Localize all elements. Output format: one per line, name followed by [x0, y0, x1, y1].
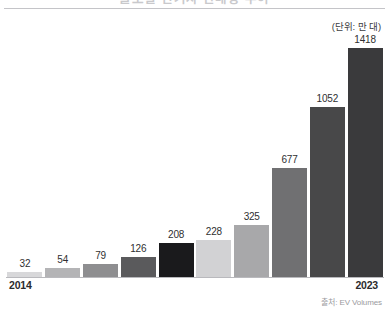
bar-rect: [83, 264, 118, 277]
bar-rect: [196, 240, 231, 277]
x-axis-label-first: 2014: [9, 279, 32, 291]
page-title: 글로벌 전기차 판매량 추이: [0, 0, 389, 7]
axis-baseline: [6, 277, 384, 278]
bar-value-label: 126: [130, 243, 146, 254]
header-divider: [4, 8, 385, 9]
bar-value-label: 228: [206, 226, 222, 237]
bar-item: 325: [234, 34, 269, 277]
bar-rect: [121, 257, 156, 277]
bar-item: 126: [121, 34, 156, 277]
bar-rect: [310, 107, 345, 277]
source-note: 출처: EV Volumes: [321, 296, 382, 307]
bar-item: 208: [159, 34, 194, 277]
bar-rect: [272, 168, 307, 277]
bar-value-label: 79: [95, 250, 106, 261]
bar-value-label: 1418: [354, 34, 375, 45]
bar-value-label: 54: [57, 254, 68, 265]
chart-page: 글로벌 전기차 판매량 추이 (단위: 만 대) 325479126208228…: [0, 0, 389, 312]
x-axis: 2014 2023: [6, 279, 384, 295]
bar-item: 79: [83, 34, 118, 277]
bar-item: 32: [7, 34, 42, 277]
bar-item: 1418: [348, 34, 383, 277]
bar-rect: [348, 48, 383, 277]
x-axis-label-last: 2023: [355, 279, 378, 291]
bar-value-label: 208: [168, 229, 184, 240]
bar-rect: [159, 243, 194, 277]
bar-series: 32547912620822832567710521418: [6, 34, 384, 277]
bar-item: 1052: [310, 34, 345, 277]
bar-value-label: 677: [281, 154, 297, 165]
bar-item: 228: [196, 34, 231, 277]
bar-item: 54: [45, 34, 80, 277]
bar-rect: [234, 225, 269, 277]
plot-area: 32547912620822832567710521418: [0, 34, 389, 278]
bar-value-label: 325: [244, 211, 260, 222]
bar-value-label: 32: [20, 258, 31, 269]
bar-value-label: 1052: [317, 93, 338, 104]
chart-title-clipped: 글로벌 전기차 판매량 추이: [0, 0, 389, 7]
bar-rect: [45, 268, 80, 277]
bar-item: 677: [272, 34, 307, 277]
unit-note: (단위: 만 대): [332, 19, 381, 33]
